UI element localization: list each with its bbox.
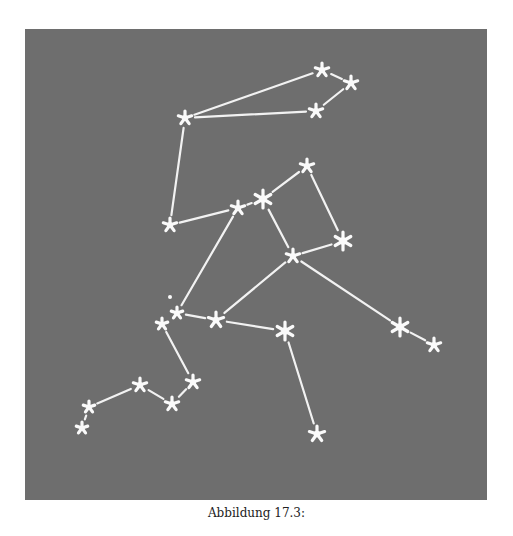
star-icon: [208, 312, 223, 326]
star-icon: [231, 201, 244, 214]
connector-line: [411, 333, 426, 341]
star-icon: [315, 63, 328, 76]
star-icon: [76, 422, 87, 433]
connector-line: [311, 175, 337, 230]
constellation-stars: [76, 63, 440, 440]
star-icon: [171, 307, 182, 318]
star-icon: [165, 397, 178, 410]
faint-star-dot: [168, 295, 172, 299]
star-icon: [427, 338, 440, 351]
star-icon: [163, 218, 176, 231]
connector-line: [303, 244, 332, 253]
star-icon: [83, 401, 94, 412]
star-icon: [156, 318, 167, 329]
star-icon: [309, 426, 324, 440]
connector-line: [324, 89, 343, 105]
connector-line: [171, 128, 183, 215]
connector-line: [224, 262, 285, 313]
constellation-diagram: [25, 29, 487, 500]
connector-line: [180, 210, 229, 222]
connector-line: [166, 332, 188, 373]
constellation-lines: [85, 73, 425, 423]
connector-line: [301, 262, 390, 321]
connector-line: [269, 210, 289, 248]
connector-line: [273, 172, 299, 192]
connector-line: [331, 74, 342, 79]
connector-line: [195, 112, 306, 118]
star-icon: [286, 249, 299, 262]
constellation-figure: [25, 29, 487, 500]
connector-line: [97, 389, 131, 403]
star-icon: [344, 76, 357, 89]
connector-line: [182, 217, 233, 306]
connector-line: [194, 73, 312, 114]
star-icon: [277, 322, 293, 340]
star-icon: [300, 159, 313, 172]
connector-line: [227, 322, 273, 329]
star-icon: [335, 232, 351, 250]
connector-line: [247, 203, 251, 205]
figure-caption: Abbildung 17.3:: [0, 506, 513, 520]
connector-line: [85, 416, 86, 420]
star-icon: [255, 190, 271, 208]
connector-line: [149, 390, 164, 399]
star-icon: [309, 104, 322, 117]
connector-line: [186, 315, 205, 318]
star-icon: [186, 375, 199, 388]
star-icon: [392, 318, 408, 336]
connector-line: [179, 389, 186, 397]
connector-line: [289, 342, 314, 423]
star-icon: [133, 378, 146, 391]
star-icon: [178, 111, 191, 124]
